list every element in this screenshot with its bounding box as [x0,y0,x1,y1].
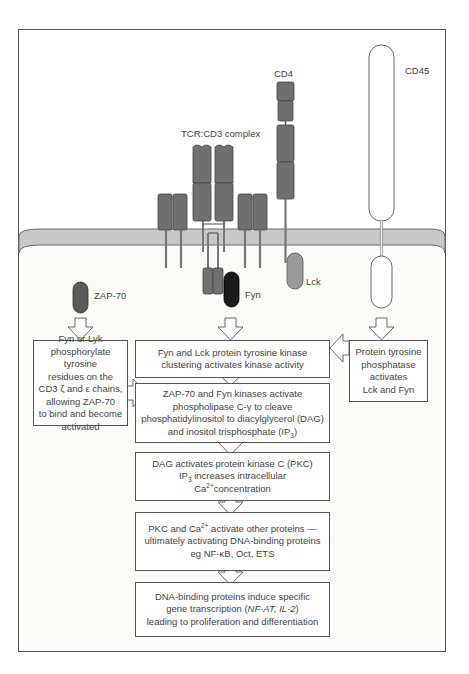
box-line: CD3 ζ and ε chains, [39,383,123,396]
box-dna-binding-activation: PKC and Ca2+ activate other proteins — u… [135,512,330,571]
box-line: phosphorylate tyrosine [34,346,127,371]
box-line: to bind and become [39,408,122,421]
tcr-complex-label: TCR:CD3 complex [181,128,260,139]
box-line: phosphatase [361,359,415,372]
fyn-label: Fyn [245,289,261,300]
box-line: allowing ZAP-70 [46,396,115,409]
box-gene-transcription: DNA-binding proteins induce specific gen… [135,582,330,637]
box-line: clustering activates kinase activity [161,359,304,372]
box-line: Fyn and Lck protein tyrosine kinase [158,347,307,360]
box-line: Fyn or Lyk [59,333,103,346]
box-line: leading to proliferation and differentia… [147,616,318,629]
box-line: Ca2+concentration [194,483,271,496]
box-line: phosphatidylinositol to diacylglycerol (… [141,413,324,426]
text-fragment: PKC and Ca [148,523,201,534]
box-line: and inositol trisphosphate (IP3) [168,426,297,439]
box-line: residues on the [48,371,113,384]
box-line: phospholipase C-γ to cleave [173,401,292,414]
cd45-molecule [369,45,394,308]
lck-label: Lck [306,276,321,287]
box-line: eg NF-κB, Oct, ETS [191,548,275,561]
box-line: activates [370,371,408,384]
text-fragment: activate other proteins — [208,523,316,534]
text-fragment: ) [294,426,297,437]
cd4-label: CD4 [274,68,293,79]
box-line: DNA-binding proteins induce specific [155,591,310,604]
lck-kinase-shape [287,253,303,289]
text-fragment: gene transcription ( [166,603,247,614]
box-pkc-activation: DAG activates protein kinase C (PKC) IP3… [135,452,330,501]
box-line: Lck and Fyn [363,384,415,397]
box-line: activated [61,421,99,434]
text-fragment: and inositol trisphosphate (IP [168,426,291,437]
text-fragment: ) [296,603,299,614]
box-zap70-phosphorylation: Fyn or Lyk phosphorylate tyrosine residu… [33,340,128,426]
italic-gene-names: NF-AT, IL-2 [248,603,296,614]
box-phosphatase: Protein tyrosine phosphatase activates L… [349,340,428,402]
box-line: IP3 increases intracellular [179,470,286,483]
box-line: gene transcription (NF-AT, IL-2) [166,603,299,616]
box-line: ultimately activating DNA-binding protei… [145,535,321,548]
box-kinase-clustering: Fyn and Lck protein tyrosine kinase clus… [135,340,330,378]
box-plc-activation: ZAP-70 and Fyn kinases activate phosphol… [135,383,330,443]
cd45-label: CD45 [405,65,429,76]
text-fragment: IP [179,470,188,481]
box-line: Protein tyrosine [355,346,421,359]
box-line: ZAP-70 and Fyn kinases activate [163,388,302,401]
fyn-kinase-shape [224,272,239,307]
text-fragment: increases intracellular [192,470,287,481]
box-line: DAG activates protein kinase C (PKC) [152,458,313,471]
zap70-shape [73,282,88,313]
superscript: 2+ [206,482,213,489]
zeta-cytoplasmic-domains [203,268,223,294]
text-fragment: concentration [214,483,271,494]
zap70-label: ZAP-70 [94,290,126,301]
text-fragment: Ca [194,483,206,494]
box-line: PKC and Ca2+ activate other proteins — [148,523,316,536]
